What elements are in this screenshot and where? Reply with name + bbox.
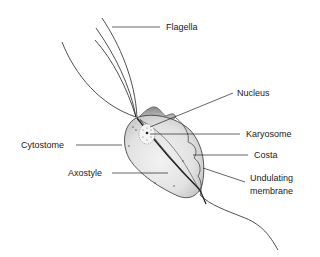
- label-nucleus: Nucleus: [237, 88, 270, 98]
- label-membrane: membrane: [250, 186, 293, 196]
- label-undulating: Undulating: [250, 173, 293, 183]
- label-costa: Costa: [254, 150, 278, 160]
- cell-body: [124, 115, 203, 197]
- flagella: [62, 18, 137, 117]
- label-karyosome: Karyosome: [246, 129, 292, 139]
- trichomonas-diagram: Flagella Nucleus Karyosome Cytostome Cos…: [0, 0, 320, 257]
- label-flagella: Flagella: [166, 22, 198, 32]
- label-axostyle: Axostyle: [68, 168, 102, 178]
- karyosome: [146, 132, 149, 135]
- trailing-flagellum: [200, 195, 278, 250]
- label-cytostome: Cytostome: [21, 140, 64, 150]
